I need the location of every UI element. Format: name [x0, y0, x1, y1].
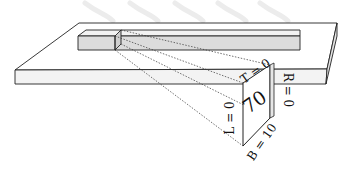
diagram-canvas: 70 T = 0 R = 0 L = 0 B = 10 — [0, 0, 347, 175]
watermark — [85, 3, 288, 21]
label-left: L = 0 — [223, 101, 237, 134]
bar-top-face — [78, 30, 300, 36]
label-right: R = 0 — [281, 73, 295, 107]
bar-front-face — [78, 36, 300, 50]
plate-front-face — [15, 69, 327, 84]
bar — [78, 30, 300, 50]
cross-section-edge — [270, 63, 274, 118]
